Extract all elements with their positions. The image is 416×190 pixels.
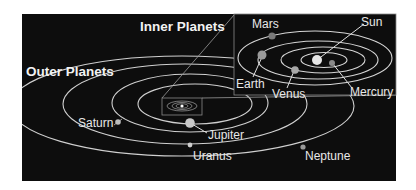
- label-jupiter: Jupiter: [208, 129, 244, 141]
- earth-icon: [258, 51, 267, 60]
- label-sun: Sun: [361, 16, 382, 28]
- sun-icon: [312, 55, 322, 65]
- uranus-icon: [188, 143, 193, 148]
- venus-icon: [291, 66, 299, 74]
- label-saturn: Saturn: [78, 117, 113, 129]
- mercury-icon: [329, 60, 335, 66]
- label-mars: Mars: [252, 18, 279, 30]
- label-mercury: Mercury: [350, 86, 393, 98]
- label-earth: Earth: [236, 78, 265, 90]
- jupiter-icon: [185, 118, 195, 128]
- label-uranus: Uranus: [193, 150, 232, 162]
- mars-icon: [268, 32, 275, 39]
- label-neptune: Neptune: [305, 150, 350, 162]
- outer-planets-title: Outer Planets: [26, 65, 114, 79]
- label-venus: Venus: [272, 88, 305, 100]
- inner-planets-title: Inner Planets: [140, 20, 225, 34]
